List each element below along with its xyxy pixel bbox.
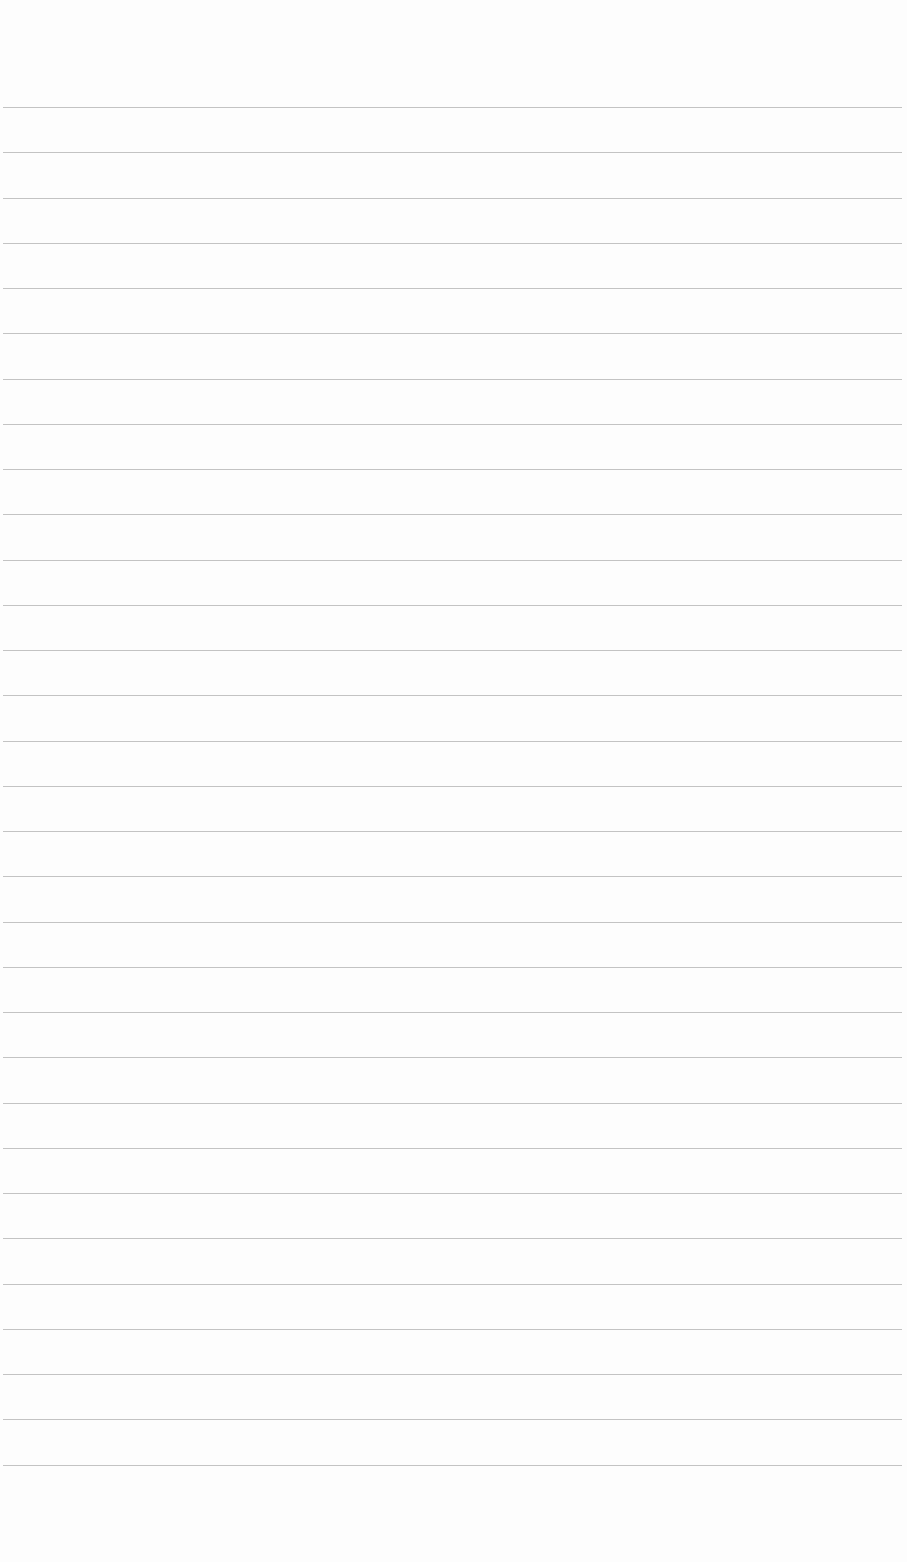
ruled-line: [3, 1148, 902, 1149]
ruled-line: [3, 1103, 902, 1104]
ruled-line: [3, 288, 902, 289]
lined-paper-page: [0, 0, 907, 1562]
ruled-line: [3, 243, 902, 244]
ruled-line: [3, 786, 902, 787]
ruled-line: [3, 1374, 902, 1375]
ruled-line: [3, 922, 902, 923]
ruled-line: [3, 876, 902, 877]
ruled-line: [3, 1329, 902, 1330]
ruled-line: [3, 107, 902, 108]
ruled-line: [3, 695, 902, 696]
ruled-line: [3, 605, 902, 606]
ruled-line: [3, 1284, 902, 1285]
ruled-line: [3, 831, 902, 832]
ruled-line: [3, 741, 902, 742]
ruled-line: [3, 333, 902, 334]
ruled-line: [3, 514, 902, 515]
ruled-line: [3, 424, 902, 425]
ruled-line: [3, 967, 902, 968]
ruled-line: [3, 1012, 902, 1013]
ruled-line: [3, 1238, 902, 1239]
ruled-line: [3, 560, 902, 561]
ruled-line: [3, 152, 902, 153]
ruled-line: [3, 379, 902, 380]
ruled-line: [3, 1193, 902, 1194]
ruled-line: [3, 198, 902, 199]
ruled-line: [3, 650, 902, 651]
ruled-line: [3, 1465, 902, 1466]
ruled-line: [3, 1057, 902, 1058]
ruled-line: [3, 1419, 902, 1420]
ruled-line: [3, 469, 902, 470]
